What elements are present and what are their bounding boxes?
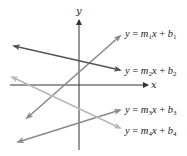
x-axis-label: x xyxy=(151,79,157,90)
line-diagram: y x y = m1x + b1y = m2x + b2y = m3x + b3… xyxy=(0,0,187,156)
lines-group xyxy=(12,36,120,142)
equation-label-2: y = m2x + b2 xyxy=(124,65,177,78)
y-axis-label: y xyxy=(75,5,82,16)
equation-label-4: y = m4x + b4 xyxy=(124,125,177,138)
line-3 xyxy=(18,110,120,142)
equation-label-1: y = m1x + b1 xyxy=(124,28,177,41)
equation-label-3: y = m3x + b3 xyxy=(124,104,177,117)
